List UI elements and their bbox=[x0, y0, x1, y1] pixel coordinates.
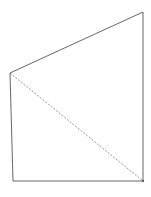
edge-top bbox=[10, 12, 143, 73]
quadrilateral-diagram bbox=[0, 0, 151, 197]
diagonal-dashed bbox=[10, 73, 143, 181]
vertex-dot bbox=[142, 180, 144, 182]
edge-left bbox=[10, 73, 13, 181]
